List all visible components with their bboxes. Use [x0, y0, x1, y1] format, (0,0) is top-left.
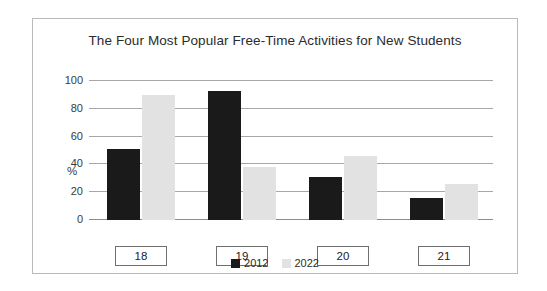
legend-swatch-2012 — [231, 259, 240, 268]
legend-item-2022[interactable]: 2022 — [282, 257, 319, 269]
bar-2012-18[interactable] — [107, 149, 140, 220]
legend-label-2012: 2012 — [244, 257, 268, 269]
bar-2022-19[interactable] — [243, 167, 276, 220]
y-tick-label-100: 100 — [65, 74, 83, 86]
chart-legend: 2012 2022 — [33, 257, 517, 269]
y-tick-label-80: 80 — [71, 102, 83, 114]
legend-swatch-2022 — [282, 259, 291, 268]
bar-2022-20[interactable] — [344, 156, 377, 220]
legend-label-2022: 2022 — [295, 257, 319, 269]
y-tick-label-60: 60 — [71, 130, 83, 142]
bar-2012-19[interactable] — [208, 91, 241, 220]
bar-group-18 — [107, 81, 175, 220]
bar-2012-20[interactable] — [309, 177, 342, 220]
bar-2022-18[interactable] — [142, 95, 175, 220]
bar-group-19 — [208, 81, 276, 220]
legend-item-2012[interactable]: 2012 — [231, 257, 268, 269]
chart-container: The Four Most Popular Free-Time Activiti… — [32, 18, 518, 274]
chart-title: The Four Most Popular Free-Time Activiti… — [33, 33, 517, 48]
bar-group-21 — [410, 81, 478, 220]
bar-2022-21[interactable] — [445, 184, 478, 220]
y-tick-label-0: 0 — [77, 213, 83, 225]
y-tick-label-40: 40 — [71, 157, 83, 169]
plot-area: 0 20 40 60 80 100 — [89, 81, 493, 220]
bar-group-20 — [309, 81, 377, 220]
y-tick-label-20: 20 — [71, 185, 83, 197]
bar-2012-21[interactable] — [410, 198, 443, 220]
